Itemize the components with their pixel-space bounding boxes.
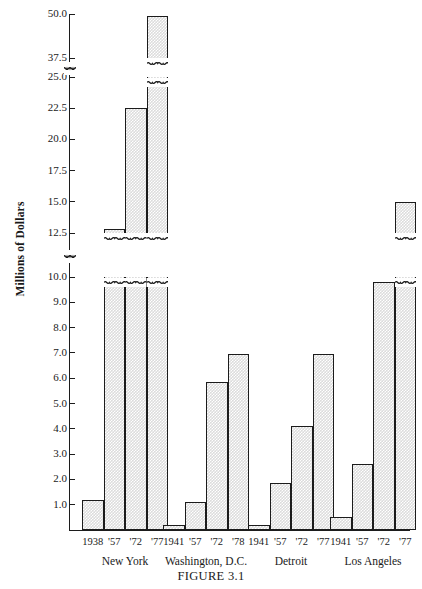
y-tick-mark — [69, 302, 75, 303]
y-tick-mark — [69, 277, 75, 278]
y-tick-mark — [69, 201, 75, 202]
bar — [82, 500, 104, 530]
y-tick-mark — [69, 403, 75, 404]
y-tick-label-wrap: 6.0 — [0, 372, 67, 383]
y-tick-label: 22.5 — [9, 102, 67, 113]
figure-caption: FIGURE 3.1 — [0, 569, 422, 584]
figure-container: Millions of Dollars 1.02.03.04.05.06.07.… — [0, 0, 422, 589]
bar — [352, 464, 374, 530]
y-tick-label: 7.0 — [9, 347, 67, 358]
y-tick-label: 12.5 — [9, 227, 67, 238]
y-tick-label-wrap: 22.5 — [0, 102, 67, 113]
bar-segment — [395, 277, 417, 530]
y-tick-label-wrap: 20.0 — [0, 133, 67, 144]
bar-break-upper — [147, 54, 169, 63]
y-tick-label: 10.0 — [9, 271, 67, 282]
y-tick-label: 6.0 — [9, 372, 67, 383]
y-tick-label: 17.5 — [9, 165, 67, 176]
y-tick-label-wrap: 50.0 — [0, 8, 67, 19]
y-tick-label-wrap: 5.0 — [0, 398, 67, 409]
y-tick-mark — [69, 58, 75, 59]
bar — [228, 354, 250, 530]
y-tick-mark — [69, 14, 75, 15]
x-axis-line — [69, 530, 410, 531]
y-tick-mark — [69, 108, 75, 109]
y-tick-label-wrap: 12.5 — [0, 227, 67, 238]
bar — [373, 282, 395, 530]
y-tick-label-wrap: 37.5 — [0, 52, 67, 63]
y-tick-label: 8.0 — [9, 322, 67, 333]
y-tick-label-wrap: 25.0 — [0, 71, 67, 82]
y-tick-label: 2.0 — [9, 473, 67, 484]
bar-break-lower — [147, 73, 169, 82]
y-tick-label-wrap: 8.0 — [0, 322, 67, 333]
y-tick-mark — [69, 479, 75, 480]
y-tick-label: 4.0 — [9, 423, 67, 434]
bar-segment — [125, 108, 147, 233]
x-tick-label: '77 — [389, 536, 422, 548]
y-tick-mark — [69, 139, 75, 140]
y-tick-label-wrap: 3.0 — [0, 448, 67, 459]
bar-break-upper — [125, 229, 147, 238]
y-tick-mark — [69, 77, 75, 78]
bar-break-lower — [395, 273, 417, 282]
y-tick-label: 20.0 — [9, 133, 67, 144]
bar — [206, 382, 228, 530]
y-tick-label: 1.0 — [9, 499, 67, 510]
y-axis-break-mark — [64, 249, 76, 262]
bar — [313, 354, 335, 530]
y-tick-mark — [69, 352, 75, 353]
bar-segment — [147, 16, 169, 58]
y-tick-label-wrap: 4.0 — [0, 423, 67, 434]
bar — [248, 525, 270, 530]
bar-segment — [104, 277, 126, 530]
y-tick-label: 37.5 — [9, 52, 67, 63]
y-axis-break-mark — [64, 61, 76, 74]
y-tick-label: 25.0 — [9, 71, 67, 82]
y-tick-label-wrap: 9.0 — [0, 296, 67, 307]
bar-break-lower — [104, 273, 126, 282]
bar-break-upper — [104, 229, 126, 238]
bar-segment — [147, 77, 169, 233]
bar — [330, 517, 352, 530]
y-tick-mark — [69, 454, 75, 455]
bar-break-upper — [395, 229, 417, 238]
y-tick-label-wrap: 17.5 — [0, 165, 67, 176]
bar — [291, 426, 313, 530]
bar-segment — [125, 277, 147, 530]
bar-break-lower — [125, 273, 147, 282]
y-tick-label: 3.0 — [9, 448, 67, 459]
y-tick-mark — [69, 170, 75, 171]
y-tick-mark — [69, 327, 75, 328]
y-tick-label-wrap: 7.0 — [0, 347, 67, 358]
y-tick-mark — [69, 428, 75, 429]
bar — [270, 483, 292, 530]
y-tick-label: 15.0 — [9, 196, 67, 207]
bar-segment — [147, 277, 169, 530]
y-tick-label: 5.0 — [9, 398, 67, 409]
y-tick-label-wrap: 10.0 — [0, 271, 67, 282]
y-tick-mark — [69, 233, 75, 234]
y-tick-mark — [69, 504, 75, 505]
y-tick-mark — [69, 378, 75, 379]
bar-break-upper — [147, 229, 169, 238]
y-tick-label-wrap: 15.0 — [0, 196, 67, 207]
y-tick-label: 50.0 — [9, 8, 67, 19]
y-tick-label-wrap: 1.0 — [0, 499, 67, 510]
y-tick-label: 9.0 — [9, 296, 67, 307]
bar — [185, 502, 207, 530]
y-tick-label-wrap: 2.0 — [0, 473, 67, 484]
x-group-label: Los Angeles — [303, 555, 422, 568]
bar — [163, 525, 185, 530]
bar-break-lower — [147, 273, 169, 282]
